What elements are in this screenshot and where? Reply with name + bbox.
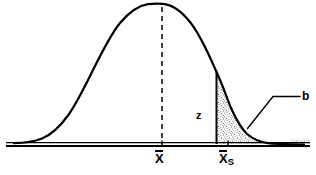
bell-curve-path bbox=[14, 4, 304, 145]
axis-label-population-mean-text: X bbox=[155, 152, 164, 165]
beta-region-label: b bbox=[302, 90, 309, 102]
distribution-chart-canvas bbox=[0, 0, 316, 175]
axis-label-population-mean: X bbox=[155, 152, 164, 165]
axis-label-sample-mean-text: X bbox=[219, 152, 228, 165]
normal-distribution-figure: X X S z b bbox=[0, 0, 316, 175]
axis-label-sample-mean: X S bbox=[219, 152, 234, 165]
overbar-sample-mean bbox=[219, 150, 227, 152]
beta-callout-leader-line bbox=[248, 97, 301, 129]
tail-stipple-fill bbox=[214, 68, 306, 146]
shaded-tail-region bbox=[214, 68, 306, 146]
z-distance-label: z bbox=[196, 110, 202, 121]
baseline-axis bbox=[6, 143, 310, 146]
axis-label-sample-mean-subscript: S bbox=[228, 157, 234, 167]
overbar-mean bbox=[155, 150, 163, 152]
